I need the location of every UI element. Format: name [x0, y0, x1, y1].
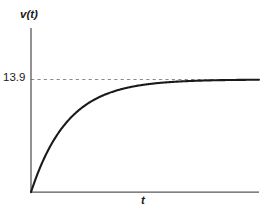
- velocity-curve: [31, 80, 259, 192]
- plot-area: [0, 0, 269, 214]
- y-axis-label: v(t): [20, 9, 38, 21]
- y-tick-label-13-9: 13.9: [3, 72, 25, 84]
- velocity-time-graph-figure: v(t) t 13.9: [0, 0, 269, 214]
- x-axis-label: t: [141, 195, 145, 207]
